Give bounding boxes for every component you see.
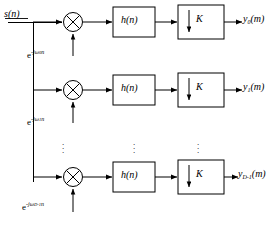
branch-0-output-arg: (m) [250, 13, 264, 24]
branch-2-modulator-exponent: -jω [26, 201, 34, 207]
branch-0 [33, 5, 242, 56]
branch-1-downsampler-label: K [196, 82, 203, 92]
branch-2-downsampler-label: K [196, 169, 203, 179]
branch-2-modulator-tail: n [41, 201, 44, 207]
downsampler-column-ellipsis-icon: ... [197, 140, 199, 152]
input-signal-label: s(n) [4, 9, 20, 19]
branch-2-output-label: yD-1(m) [238, 169, 266, 180]
branch-0-downsampler-label: K [196, 14, 203, 24]
filter-bank-diagram [0, 0, 278, 225]
branch-1 [33, 73, 242, 123]
branch-2 [33, 160, 238, 212]
branch-2-output-subscript: D-1 [242, 174, 251, 180]
branch-2-output-arg: (m) [252, 168, 266, 179]
branch-0-filter-label: h(n) [121, 15, 138, 25]
branch-1-modulator-tail: n [41, 116, 44, 122]
multiplier-column-ellipsis-icon: ... [62, 140, 64, 152]
branch-1-output-label: y1(m) [243, 82, 264, 93]
branch-1-output-arg: (m) [250, 81, 264, 92]
branch-1-modulator-exponent: -jω [31, 116, 39, 122]
branch-0-modulator-tail: n [41, 49, 44, 55]
branch-1-filter-label: h(n) [121, 83, 138, 93]
branch-1-modulator-label: e-jω1n [27, 118, 44, 127]
branch-2-filter-label: h(n) [121, 170, 138, 180]
branch-0-output-label: y0(m) [243, 14, 264, 25]
filter-column-ellipsis-icon: ... [133, 140, 135, 152]
branch-2-modulator-label: e-jωD-1n [22, 203, 44, 212]
branch-0-modulator-label: e-jω0n [27, 51, 44, 60]
branch-0-modulator-exponent: -jω [31, 49, 39, 55]
branch-2-modulator-subscript: D-1 [34, 202, 41, 207]
